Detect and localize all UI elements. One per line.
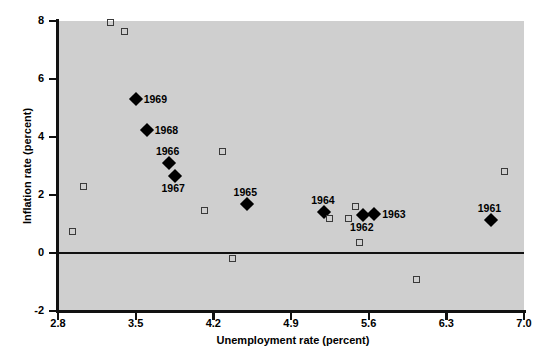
y-tick-label: 8 [18, 15, 44, 26]
plot-area [58, 21, 524, 311]
data-point-square [352, 203, 359, 210]
data-point-label: 1964 [311, 195, 334, 205]
chart-root: 86420-2 2.83.54.24.95.66.37.0 1969196819… [0, 0, 541, 364]
x-tick-label: 4.9 [271, 318, 311, 329]
data-point-label: 1962 [350, 222, 373, 232]
data-point-square [326, 215, 333, 222]
data-point-square [356, 239, 363, 246]
y-tick-mark [49, 252, 58, 254]
x-tick-label: 2.8 [38, 318, 78, 329]
x-tick-label: 6.3 [426, 318, 466, 329]
y-tick-label: -2 [18, 305, 44, 316]
data-point-label: 1967 [162, 183, 185, 193]
data-point-square [69, 228, 76, 235]
y-tick-mark [49, 194, 58, 196]
x-tick-label: 4.2 [193, 318, 233, 329]
data-point-label: 1968 [155, 125, 178, 135]
data-point-square [80, 183, 87, 190]
data-point-label: 1963 [382, 209, 405, 219]
data-point-label: 1969 [144, 94, 167, 104]
data-point-square [219, 148, 226, 155]
x-tick-label: 7.0 [504, 318, 541, 329]
x-tick-label: 3.5 [116, 318, 156, 329]
y-tick-mark [49, 20, 58, 22]
y-tick-mark [49, 78, 58, 80]
y-axis-title: Inflation rate (percent) [21, 76, 33, 256]
y-axis-line [56, 19, 59, 313]
data-point-square [201, 207, 208, 214]
data-point-square [501, 168, 508, 175]
data-point-square [345, 215, 352, 222]
x-tick-label: 5.6 [349, 318, 389, 329]
y-tick-mark [49, 136, 58, 138]
data-point-label: 1966 [156, 146, 179, 156]
data-point-square [229, 255, 236, 262]
data-point-square [121, 28, 128, 35]
data-point-square [107, 19, 114, 26]
x-axis-title: Unemployment rate (percent) [168, 334, 418, 346]
data-point-square [413, 276, 420, 283]
data-point-label: 1965 [234, 187, 257, 197]
zero-reference-line [58, 252, 524, 254]
data-point-label: 1961 [478, 203, 501, 213]
